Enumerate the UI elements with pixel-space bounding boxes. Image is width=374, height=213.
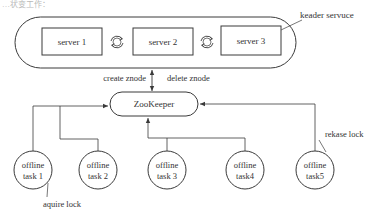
zookeeper-node: ZooKeeper: [110, 92, 198, 116]
task2-connector: [60, 106, 98, 151]
task-2-node: offline task 2: [79, 151, 117, 189]
svg-text:task 3: task 3: [157, 171, 177, 181]
task-3-node: offline task 3: [148, 151, 186, 189]
svg-text:task4: task4: [236, 171, 255, 181]
svg-text:offline: offline: [234, 160, 257, 170]
svg-text:offline: offline: [156, 160, 179, 170]
task1-connector: [33, 106, 108, 151]
server-2-box: server 2: [133, 28, 193, 55]
task-4-node: offline task4: [226, 151, 264, 189]
zookeeper-lock-diagram: …状变工作： server 1 server 2 server 3: [0, 0, 374, 213]
acquire-lock-label: aquire lock: [43, 199, 82, 209]
svg-text:offline: offline: [304, 160, 327, 170]
delete-znode-label: delete znode: [167, 73, 210, 83]
svg-text:task 2: task 2: [88, 171, 108, 181]
task-1-node: offline task 1: [14, 151, 52, 189]
svg-text:offline: offline: [87, 160, 110, 170]
leader-service-label: keader servuce: [300, 10, 354, 20]
server-2-label: server 2: [149, 37, 178, 47]
header-fragment: …状变工作：: [2, 0, 50, 9]
task5-connector: [200, 104, 315, 151]
server-3-box: server 3: [221, 26, 281, 55]
svg-text:task5: task5: [306, 171, 324, 181]
sync-icon: [111, 36, 123, 48]
sync-icon: [201, 36, 213, 48]
create-znode-label: create znode: [103, 73, 146, 83]
task-5-node: offline task5: [296, 151, 334, 189]
release-lock-callout-line: [319, 140, 326, 152]
svg-text:offline: offline: [22, 160, 45, 170]
release-lock-label: rekase lock: [325, 129, 364, 139]
server-3-label: server 3: [237, 36, 266, 46]
server-1-box: server 1: [42, 28, 102, 55]
svg-text:task 1: task 1: [23, 171, 43, 181]
zookeeper-label: ZooKeeper: [134, 99, 174, 109]
task4-connector: [148, 138, 245, 151]
server-1-label: server 1: [58, 37, 87, 47]
acquire-lock-callout-line: [47, 183, 48, 197]
leader-service-group: server 1 server 2 server 3: [15, 17, 296, 68]
